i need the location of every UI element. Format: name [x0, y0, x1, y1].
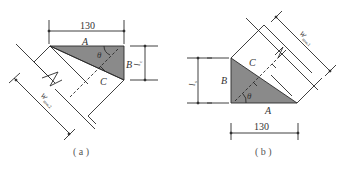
svg-text:mw,1: mw,1	[300, 37, 311, 48]
width-label-b: W mw,1	[296, 30, 314, 48]
label-c-fig-a: C	[100, 76, 107, 87]
angle-theta-fig-a: θ	[97, 50, 102, 60]
label-b-fig-b: B	[221, 75, 227, 86]
label-c-fig-b: C	[249, 57, 256, 68]
label-a-fig-b: A	[264, 105, 272, 116]
width-label-a: W mw,2	[37, 92, 55, 110]
svg-text:s: s	[193, 81, 198, 83]
dim-130-a: 130	[80, 20, 95, 31]
caption-a: ( a )	[73, 146, 89, 158]
figure-b-labels: C B θ A 130 l s W mw,1 ( b )	[187, 30, 314, 158]
svg-text:c: c	[138, 60, 143, 63]
vertical-dim-label-b: l s	[187, 81, 198, 86]
figure-a-labels: 130 A θ B C l c W mw,2 ( a )	[37, 20, 143, 158]
svg-text:mw,2: mw,2	[41, 99, 52, 110]
angle-theta-fig-b: θ	[247, 91, 252, 101]
diagram-canvas: 130 A θ B C l c W mw,2 ( a )	[0, 0, 344, 171]
vertical-dim-label-a: l c	[132, 60, 143, 66]
caption-b: ( b )	[255, 146, 272, 158]
label-a-fig-a: A	[81, 36, 89, 47]
shaded-triangle-b	[231, 58, 297, 103]
dim-130-b: 130	[254, 121, 269, 132]
